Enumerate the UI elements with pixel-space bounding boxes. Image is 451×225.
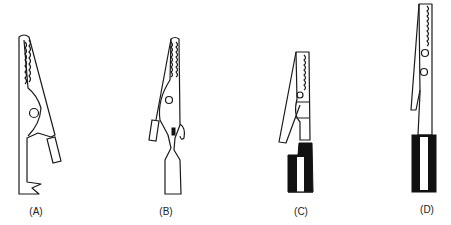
clip-d [411,4,436,192]
label-c: (C) [286,206,316,217]
clip-b [149,38,185,195]
label-b: (B) [151,206,181,217]
clip-a [19,35,61,194]
clip-c [279,52,313,192]
label-a: (A) [21,206,51,217]
label-d: (D) [412,204,442,215]
clips-figure [0,0,451,225]
